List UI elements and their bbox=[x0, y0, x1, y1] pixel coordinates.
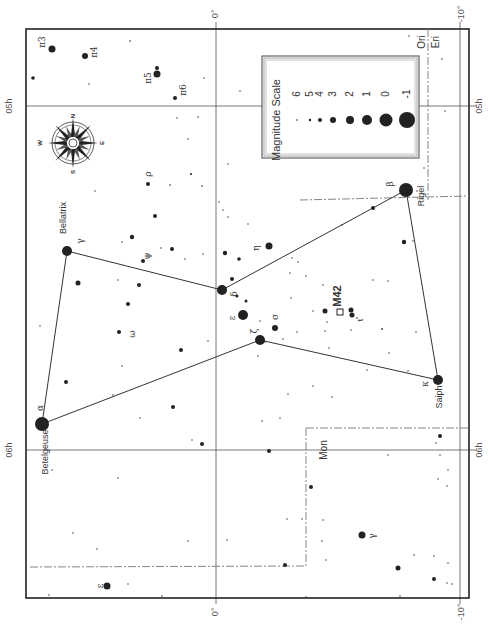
star bbox=[191, 439, 192, 440]
legend-magnitude-label: 2 bbox=[344, 91, 355, 97]
legend-dot bbox=[296, 119, 298, 121]
star-greek-label: δ bbox=[229, 291, 239, 296]
star bbox=[187, 540, 188, 541]
dso-label: M42 bbox=[331, 285, 343, 306]
legend-dot bbox=[330, 117, 336, 123]
star bbox=[413, 554, 414, 555]
star bbox=[325, 559, 326, 560]
star bbox=[104, 583, 111, 590]
star bbox=[146, 182, 150, 186]
star-chart: δεζσηιψωρπ3π4π5π6εγ BetelgeuseαBellatrix… bbox=[0, 0, 488, 624]
star-greek-label: ζ bbox=[249, 328, 259, 333]
compass-w-label: W bbox=[37, 140, 43, 146]
star bbox=[121, 365, 122, 366]
star-greek-label: σ bbox=[270, 314, 280, 320]
star bbox=[184, 258, 185, 259]
star bbox=[226, 539, 227, 540]
star bbox=[257, 355, 258, 356]
star bbox=[129, 40, 131, 42]
star bbox=[187, 138, 188, 139]
star-greek-label: π3 bbox=[37, 36, 47, 48]
star bbox=[446, 582, 447, 583]
star bbox=[433, 555, 434, 556]
star bbox=[266, 243, 273, 250]
star bbox=[328, 347, 329, 348]
star bbox=[200, 442, 204, 446]
star bbox=[435, 442, 436, 443]
star bbox=[49, 46, 56, 53]
star bbox=[309, 485, 313, 489]
star bbox=[176, 117, 177, 118]
star bbox=[230, 277, 234, 281]
star bbox=[372, 279, 373, 280]
star bbox=[202, 253, 203, 254]
star bbox=[350, 313, 355, 318]
constellation-label-ori: Ori bbox=[416, 35, 427, 48]
star-greek-label: γ bbox=[75, 238, 85, 243]
star bbox=[349, 308, 354, 313]
star bbox=[283, 563, 287, 567]
star bbox=[160, 247, 161, 248]
declination-label: -10° bbox=[456, 5, 466, 22]
star-bellatrix bbox=[62, 246, 72, 256]
star bbox=[287, 393, 288, 394]
star bbox=[82, 53, 88, 59]
star bbox=[203, 77, 204, 78]
star-greek-label: π6 bbox=[178, 84, 188, 96]
legend-magnitude-label: 4 bbox=[314, 91, 325, 97]
star bbox=[439, 454, 440, 455]
compass-s-label: S bbox=[70, 170, 76, 174]
star bbox=[222, 209, 223, 210]
star bbox=[324, 330, 325, 331]
declination-label: -10° bbox=[456, 603, 466, 620]
star bbox=[396, 566, 401, 571]
legend-box bbox=[262, 56, 419, 158]
star bbox=[387, 280, 388, 281]
star bbox=[301, 518, 302, 519]
legend-magnitude-label: 6 bbox=[291, 91, 302, 97]
star bbox=[438, 434, 442, 438]
star bbox=[72, 532, 73, 533]
star bbox=[437, 478, 438, 479]
star-greek-label: π5 bbox=[143, 72, 153, 84]
legend-dot bbox=[380, 114, 393, 127]
star bbox=[169, 184, 171, 186]
star bbox=[223, 251, 227, 255]
star bbox=[305, 275, 306, 276]
star bbox=[31, 76, 35, 80]
star bbox=[282, 338, 283, 339]
star bbox=[117, 279, 118, 280]
star bbox=[218, 201, 219, 202]
star bbox=[261, 420, 262, 421]
compass-e-label: E bbox=[99, 141, 105, 145]
star bbox=[130, 235, 134, 239]
star-name-label: Betelgeuse bbox=[40, 429, 50, 474]
star bbox=[179, 348, 183, 352]
star bbox=[237, 257, 241, 261]
star bbox=[239, 90, 240, 91]
legend-magnitude-label: -1 bbox=[401, 89, 412, 98]
star bbox=[197, 116, 198, 117]
star bbox=[412, 240, 413, 241]
star bbox=[350, 329, 351, 330]
legend-dot bbox=[309, 119, 311, 121]
star bbox=[312, 310, 313, 311]
star bbox=[331, 396, 332, 397]
legend-magnitude-label: 0 bbox=[380, 91, 391, 97]
star bbox=[447, 562, 448, 563]
star bbox=[155, 66, 159, 70]
legend-magnitude-label: 3 bbox=[327, 91, 338, 97]
star bbox=[137, 283, 141, 287]
star bbox=[387, 454, 388, 455]
star bbox=[366, 369, 367, 370]
star-greek-label: ρ bbox=[143, 171, 153, 176]
star bbox=[64, 380, 68, 384]
constellation-label-eri: Eri bbox=[430, 36, 441, 48]
legend-title: Magnitude Scale bbox=[270, 79, 282, 161]
star-greek-label: ε bbox=[227, 315, 237, 320]
star bbox=[279, 417, 280, 418]
star bbox=[201, 185, 203, 187]
star bbox=[139, 417, 140, 418]
star-saiph bbox=[433, 375, 443, 385]
star-greek-label: α bbox=[35, 405, 45, 411]
